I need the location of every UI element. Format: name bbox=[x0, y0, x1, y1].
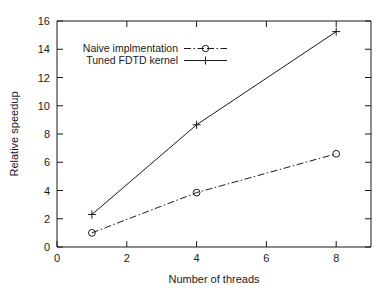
x-tick-label-4: 4 bbox=[194, 252, 200, 264]
line-chart: 16 14 12 10 8 6 4 2 0 0 2 4 6 8 Number bbox=[0, 0, 389, 298]
x-axis-title: Number of threads bbox=[168, 273, 260, 285]
y-tick-label-8: 8 bbox=[44, 128, 50, 140]
x-tick-label-0: 0 bbox=[54, 252, 60, 264]
chart-figure: 16 14 12 10 8 6 4 2 0 0 2 4 6 8 Number bbox=[0, 0, 389, 298]
y-tick-label-0: 0 bbox=[44, 241, 50, 253]
x-tick-label-2: 2 bbox=[124, 252, 130, 264]
y-tick-label-14: 14 bbox=[38, 43, 50, 55]
legend-label-naive: Naive implmentation bbox=[83, 42, 178, 54]
y-axis-title: Relative speedup bbox=[8, 91, 20, 176]
y-tick-label-4: 4 bbox=[44, 185, 50, 197]
y-tick-label-16: 16 bbox=[38, 15, 50, 27]
y-tick-label-2: 2 bbox=[44, 213, 50, 225]
y-tick-label-6: 6 bbox=[44, 156, 50, 168]
y-tick-label-10: 10 bbox=[38, 100, 50, 112]
legend-label-tuned: Tuned FDTD kernel bbox=[86, 54, 178, 66]
x-tick-label-8: 8 bbox=[333, 252, 339, 264]
y-tick-label-12: 12 bbox=[38, 72, 50, 84]
x-tick-label-6: 6 bbox=[263, 252, 269, 264]
